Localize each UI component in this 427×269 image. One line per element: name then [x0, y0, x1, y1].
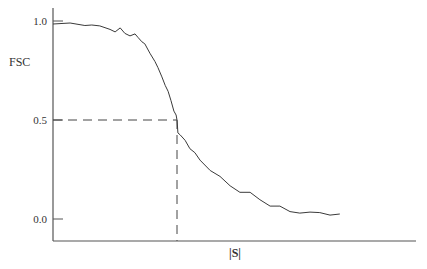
y-axis-label: FSC — [9, 55, 30, 69]
fsc-curve — [53, 23, 340, 215]
x-axis-label: |S| — [229, 246, 241, 260]
y-tick-label-0: 0.0 — [33, 213, 47, 225]
y-tick-label-05: 0.5 — [33, 114, 47, 126]
y-tick-label-1: 1.0 — [33, 15, 47, 27]
fsc-chart: 1.0 0.5 0.0 FSC |S| — [0, 0, 427, 269]
